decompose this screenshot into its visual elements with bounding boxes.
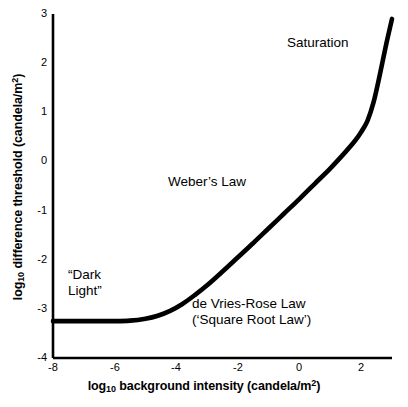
y-axis-title-wrapper: log10 difference threshold (candela/m2) (8, 7, 26, 367)
x-tick-label: -2 (226, 361, 250, 373)
tvi-curve-path (53, 19, 392, 321)
x-tick-label: 2 (349, 361, 373, 373)
y-axis-title-suffix: ) (11, 74, 25, 78)
y-axis-title-prefix: log (11, 282, 25, 300)
annotation-de-vries-rose: de Vries-Rose Law(‘Square Root Law’) (192, 296, 311, 328)
x-axis-title-prefix: log (88, 379, 106, 393)
x-axis-title: log10 background intensity (candela/m2) (0, 378, 408, 394)
y-tick-label: -2 (25, 253, 47, 265)
annotation-saturation-line1: Saturation (287, 35, 349, 51)
y-tick-label: 1 (25, 105, 47, 117)
annotation-de-vries-rose-line1: de Vries-Rose Law (192, 296, 311, 312)
y-tick-label: -1 (25, 204, 47, 216)
plot-canvas (0, 0, 408, 407)
y-axis-title-subscript: 10 (16, 272, 26, 282)
annotation-de-vries-rose-line2: (‘Square Root Law’) (192, 312, 311, 328)
y-tick-label: 3 (25, 7, 47, 19)
y-tick-label: 2 (25, 56, 47, 68)
annotation-dark-light-line1: “Dark (68, 267, 102, 283)
x-axis-title-middle: background intensity (candela/m (116, 379, 311, 393)
x-tick-label: 0 (287, 361, 311, 373)
annotation-webers-law-line1: Weber’s Law (168, 174, 246, 190)
y-axis-title-superscript: 2 (10, 78, 20, 83)
y-axis-title-middle: difference threshold (candela/m (11, 83, 25, 272)
annotation-webers-law: Weber’s Law (168, 174, 246, 190)
x-axis-title-suffix: ) (316, 379, 320, 393)
x-tick-label: -6 (103, 361, 127, 373)
annotation-dark-light-line2: Light” (68, 283, 102, 299)
x-tick-label: -8 (41, 361, 65, 373)
y-tick-label: -3 (25, 302, 47, 314)
x-tick-label: -4 (164, 361, 188, 373)
annotation-saturation: Saturation (287, 35, 349, 51)
tvi-curve-figure: 3 2 1 0 -1 -2 -3 -4 -8 -6 -4 -2 0 2 log1… (0, 0, 408, 407)
x-axis-title-subscript: 10 (106, 384, 116, 394)
y-tick-label: 0 (25, 154, 47, 166)
annotation-dark-light: “DarkLight” (68, 267, 102, 299)
y-axis-title: log10 difference threshold (candela/m2) (11, 74, 25, 300)
